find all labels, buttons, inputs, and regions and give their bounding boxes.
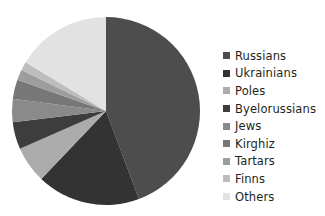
legend-item-label: Byelorussians [235,103,316,115]
pie-plot-area [11,16,201,206]
legend-swatch-icon [223,140,230,147]
legend-item-label: Jews [235,120,261,132]
legend-swatch-icon [223,52,230,59]
legend-item-finns[interactable]: Finns [223,170,265,188]
legend-item-label: Kirghiz [235,138,275,150]
chart-legend: Russians Ukrainians Poles Byelorussians … [223,47,323,205]
legend-swatch-icon [223,105,230,112]
legend-item-others[interactable]: Others [223,188,274,206]
legend-item-russians[interactable]: Russians [223,47,286,65]
legend-item-label: Finns [235,173,265,185]
pie-svg [11,16,201,206]
legend-item-label: Russians [235,50,286,62]
legend-item-label: Tartars [235,155,275,167]
legend-item-jews[interactable]: Jews [223,117,261,135]
legend-item-label: Ukrainians [235,67,297,79]
legend-item-byelorussians[interactable]: Byelorussians [223,100,316,118]
legend-item-label: Others [235,191,274,203]
pie-slice-group [12,17,200,205]
pie-chart-figure: Russians Ukrainians Poles Byelorussians … [0,0,325,216]
legend-swatch-icon [223,123,230,130]
legend-item-poles[interactable]: Poles [223,82,265,100]
legend-swatch-icon [223,87,230,94]
legend-swatch-icon [223,70,230,77]
legend-swatch-icon [223,158,230,165]
legend-item-kirghiz[interactable]: Kirghiz [223,135,275,153]
legend-item-ukrainians[interactable]: Ukrainians [223,65,297,83]
legend-item-tartars[interactable]: Tartars [223,153,275,171]
legend-item-label: Poles [235,85,265,97]
legend-swatch-icon [223,175,230,182]
legend-swatch-icon [223,193,230,200]
